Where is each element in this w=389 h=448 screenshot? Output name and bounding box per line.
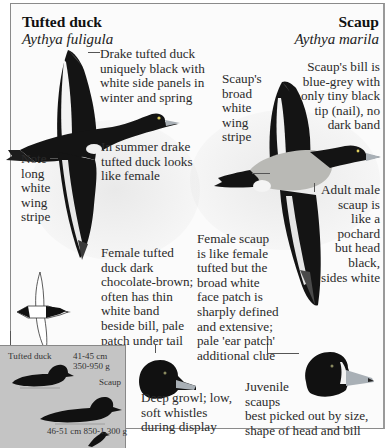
size-tufted-length: 41-45 cm: [73, 351, 107, 361]
female-tufted-note: Female tufted duck dark chocolate-brown;…: [101, 246, 193, 348]
size-tufted-weight: 350-950 g: [73, 361, 110, 371]
tufted-drake-note: Drake tufted duck uniquely black with wh…: [100, 47, 205, 105]
leader-line: [252, 173, 270, 174]
tufted-summer-note: In summer drake tufted duck looks like f…: [101, 140, 193, 184]
tufted-duck-title: Tufted duck: [22, 14, 102, 30]
tufted-duck-scientific-name: Aythya fuligula: [22, 31, 113, 47]
tufted-duck-female-small-illustration: [17, 272, 71, 352]
scaup-scientific-name: Aythya marila: [294, 31, 379, 47]
size-comparison-box: Tufted duck 41-45 cm 350-950 g Scaup 46-…: [0, 345, 126, 448]
leader-line: [314, 183, 315, 192]
scaup-bill-note: Scaup's bill is blue-grey with only tiny…: [301, 60, 380, 133]
tufted-wing-stripe-note: Note long white wing stripe: [21, 152, 50, 225]
size-label-tufted: Tufted duck: [8, 351, 51, 361]
female-scaup-note: Female scaup is like female tufted but t…: [197, 232, 279, 363]
scaup-title: Scaup: [339, 14, 380, 30]
juvenile-scaup-note: Juvenile scaups best picked out by size,…: [245, 380, 368, 438]
size-scaup-measure: 46-51 cm 850-1,300 g: [47, 426, 127, 436]
frame-edge: [10, 331, 11, 345]
leader-line: [88, 52, 100, 53]
tufted-call-note: Deep growl; low, soft whistles during di…: [141, 391, 232, 435]
scaup-wing-stripe-note: Scaup's broad white wing stripe: [222, 72, 262, 145]
scaup-adult-male-note: Adult male scaup is like a pochard but h…: [321, 183, 380, 285]
size-label-scaup: Scaup: [99, 377, 121, 387]
leader-line: [50, 158, 58, 159]
